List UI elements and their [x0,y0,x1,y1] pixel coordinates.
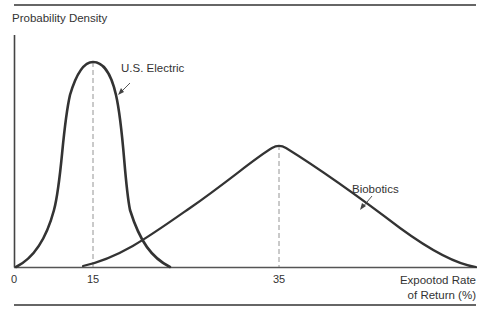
x-tick-35: 35 [273,273,285,285]
plot-area [0,0,492,309]
biobotics-curve [83,146,476,267]
x-axis-label-line1: Expootod Rate [400,273,476,288]
x-axis-label-line2: of Return (%) [400,288,476,303]
us-electric-label: U.S. Electric [121,62,184,74]
biobotics-label: Biobotics [352,183,399,195]
x-axis-label: Expootod Rate of Return (%) [400,273,476,303]
x-tick-15: 15 [87,273,99,285]
x-tick-0: 0 [11,273,17,285]
us-electric-arrowhead [118,88,124,95]
